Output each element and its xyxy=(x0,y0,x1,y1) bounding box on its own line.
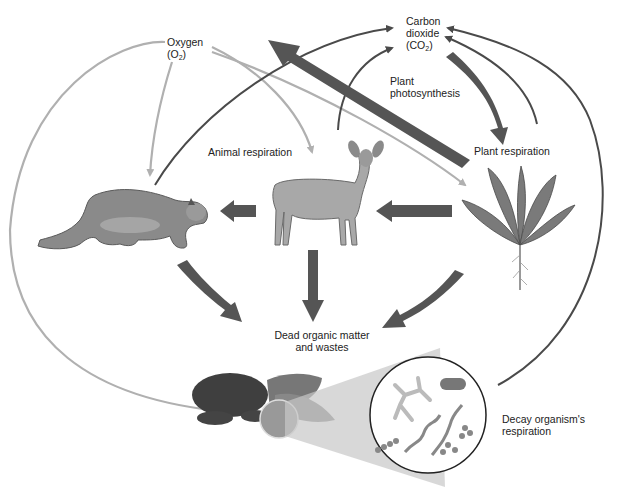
decay-line2: respiration xyxy=(502,425,585,437)
plant-to-deer-arrow xyxy=(376,200,452,222)
oxygen-formula: (O2) xyxy=(167,48,203,64)
cougar-illustration xyxy=(38,190,207,249)
co2-label: Carbon dioxide (CO2) xyxy=(406,15,440,55)
decomposers-magnified-view xyxy=(370,357,486,473)
co2-formula-end: ) xyxy=(429,39,433,51)
oxygen-formula-main: (O xyxy=(167,48,179,60)
oxygen-formula-end: ) xyxy=(183,48,187,60)
decay-respiration-label: Decay organism's respiration xyxy=(502,413,585,437)
plant-photosynthesis-line2: photosynthesis xyxy=(390,87,460,99)
co2-formula-main: (CO xyxy=(406,39,425,51)
co2-line1: Carbon xyxy=(406,15,440,27)
co2-line2: dioxide xyxy=(406,27,440,39)
co2-formula: (CO2) xyxy=(406,39,440,55)
plant-photosynthesis-label: Plant photosynthesis xyxy=(390,75,460,99)
oxygen-label: Oxygen (O2) xyxy=(167,36,203,64)
dead-matter-line1: Dead organic matter xyxy=(252,329,392,341)
dead-organic-matter-label: Dead organic matter and wastes xyxy=(252,329,392,353)
plant-photosynthesis-line1: Plant xyxy=(390,75,460,87)
decay-line1: Decay organism's xyxy=(502,413,585,425)
oxygen-name: Oxygen xyxy=(167,36,203,48)
plant-illustration xyxy=(462,166,575,290)
animal-respiration-label: Animal respiration xyxy=(208,146,292,158)
plant-respiration-label: Plant respiration xyxy=(474,145,550,157)
photosynthesis-arrow xyxy=(268,40,470,168)
dead-matter-line2: and wastes xyxy=(252,341,392,353)
deer-to-cougar-arrow xyxy=(220,200,256,222)
